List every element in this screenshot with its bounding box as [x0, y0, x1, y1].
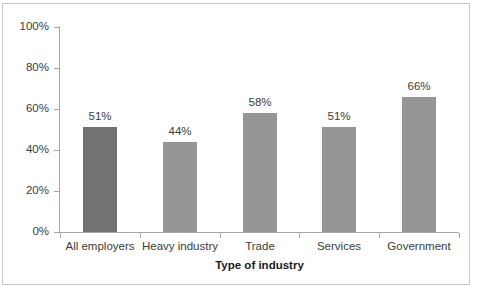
bar: [322, 127, 356, 232]
clipped-caption: [15, 279, 315, 290]
x-axis-tick: [220, 233, 221, 238]
bar: [243, 113, 277, 232]
x-axis-tick: [299, 233, 300, 238]
y-axis-tick: [54, 27, 60, 28]
y-axis-tick-label: 60%: [3, 103, 49, 114]
y-axis-line: [59, 26, 60, 233]
bar-value-label: 51%: [70, 110, 130, 122]
y-axis-tick-label: 100%: [3, 21, 49, 32]
x-axis-category-label: Government: [369, 240, 469, 253]
y-axis-tick: [54, 150, 60, 151]
y-axis-tick-label: 40%: [3, 144, 49, 155]
bar-value-label: 66%: [389, 80, 449, 92]
y-axis-tick-label: 20%: [3, 185, 49, 196]
y-axis-tick: [54, 68, 60, 69]
x-axis-tick: [140, 233, 141, 238]
x-axis-line: [60, 232, 459, 233]
y-axis-tick: [54, 191, 60, 192]
bar: [163, 142, 197, 232]
x-axis-tick: [379, 233, 380, 238]
bar-value-label: 51%: [309, 110, 369, 122]
x-axis-title: Type of industry: [60, 259, 459, 271]
x-axis-tick: [60, 233, 61, 238]
bar-value-label: 44%: [150, 125, 210, 137]
bar-chart-figure: 0%20%40%60%80%100% 51%44%58%51%66% All e…: [2, 3, 470, 285]
y-axis-tick-label: 0%: [3, 226, 49, 237]
bar: [402, 97, 436, 232]
bar: [83, 127, 117, 232]
bar-value-label: 58%: [230, 96, 290, 108]
y-axis-tick: [54, 109, 60, 110]
x-axis-tick: [459, 233, 460, 238]
y-axis-tick-label: 80%: [3, 62, 49, 73]
